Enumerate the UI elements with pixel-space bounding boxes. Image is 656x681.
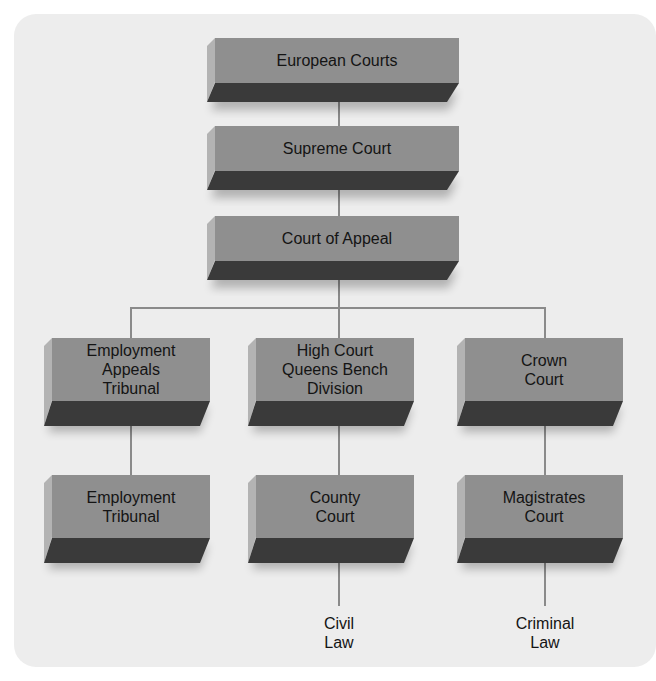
node-high-court-queens-bench: High Court Queens Bench Division: [248, 338, 416, 426]
connector-to-employment-appeals: [130, 307, 132, 339]
node-label: Supreme Court: [215, 126, 459, 171]
node-magistrates-court: Magistrates Court: [457, 475, 625, 563]
connector-to-high-court: [338, 307, 340, 339]
node-european-courts: European Courts: [207, 38, 461, 106]
node-label: Employment Appeals Tribunal: [52, 338, 210, 401]
node-label: Crown Court: [465, 338, 623, 401]
node-supreme-court: Supreme Court: [207, 126, 461, 194]
node-crown-court: Crown Court: [457, 338, 625, 426]
node-label: County Court: [256, 475, 414, 538]
connector-to-crown-court: [544, 307, 546, 339]
node-label: High Court Queens Bench Division: [256, 338, 414, 401]
node-label: Employment Tribunal: [52, 475, 210, 538]
node-court-of-appeal: Court of Appeal: [207, 216, 461, 284]
node-county-court: County Court: [248, 475, 416, 563]
node-label: European Courts: [215, 38, 459, 83]
leaf-civil-law: Civil Law: [289, 614, 389, 652]
node-employment-tribunal: Employment Tribunal: [44, 475, 212, 563]
node-label: Court of Appeal: [215, 216, 459, 261]
node-employment-appeals-tribunal: Employment Appeals Tribunal: [44, 338, 212, 426]
leaf-criminal-law: Criminal Law: [495, 614, 595, 652]
node-label: Magistrates Court: [465, 475, 623, 538]
